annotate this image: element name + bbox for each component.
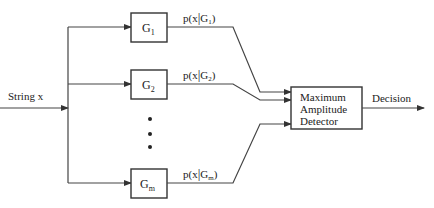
output-label-gm: p(x|Gm)	[183, 166, 218, 182]
classifier-box-g1: G1	[131, 13, 167, 42]
output-wire-g1	[167, 27, 291, 92]
output-label-g2: p(x|G2)	[183, 67, 216, 83]
svg-text:Detector: Detector	[300, 115, 338, 127]
pattern-classifier-diagram: String x G1 G2 Gm p(x|G1) p(x|G2) p(x|Gm…	[0, 0, 434, 208]
output-label-g1: p(x|G1)	[183, 10, 216, 26]
ellipsis-dots	[148, 117, 152, 149]
classifier-box-g2: G2	[131, 70, 167, 99]
svg-text:Maximum: Maximum	[300, 91, 346, 103]
classifier-box-gm: Gm	[131, 169, 167, 198]
svg-text:Amplitude: Amplitude	[300, 103, 347, 115]
input-label: String x	[8, 90, 44, 102]
decision-label: Decision	[372, 92, 412, 104]
maximum-amplitude-detector-box: Maximum Amplitude Detector	[291, 87, 362, 129]
